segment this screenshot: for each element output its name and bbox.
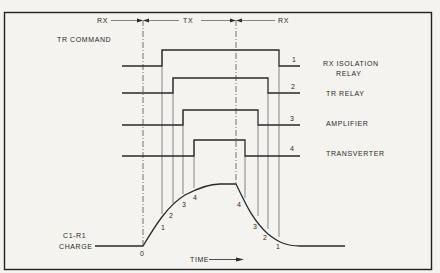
arrow-right-icon [236, 258, 244, 262]
fall-mark-4: 4 [237, 201, 242, 208]
channel-rx-isolation-relay: 1 RX ISOLATION RELAY [122, 50, 379, 77]
channel-label: TRANSVERTER [326, 150, 385, 157]
phase-label-rx-end: RX [278, 17, 289, 24]
time-label: TIME [190, 256, 209, 263]
rise-guides [162, 50, 194, 214]
channel-label: AMPLIFIER [326, 120, 368, 127]
phase-header: RX TX RX [97, 17, 289, 24]
phase-label-tx: TX [183, 17, 193, 24]
channel-number: 2 [291, 83, 296, 90]
channel-number: 4 [290, 145, 295, 152]
diagram-border [5, 13, 432, 270]
tr-command-label: TR COMMAND [57, 36, 111, 43]
charge-curve: C1-R1 CHARGE 0 1 2 3 4 4 3 2 1 [59, 184, 345, 257]
channel-amplifier: 3 AMPLIFIER [122, 110, 368, 127]
channel-tr-relay: 2 TR RELAY [122, 78, 365, 97]
fall-mark-1: 1 [276, 243, 281, 250]
charge-label-line2: CHARGE [59, 243, 93, 250]
time-axis: TIME [190, 256, 244, 263]
channel-transverter: 4 TRANSVERTER [122, 140, 385, 157]
rise-mark-1: 1 [161, 224, 166, 231]
charge-origin-label: 0 [140, 250, 145, 257]
channel-number: 3 [290, 115, 295, 122]
channel-label-line2: RELAY [336, 70, 361, 77]
charge-label: C1-R1 [63, 232, 86, 239]
channel-label: RX ISOLATION [323, 60, 379, 67]
fall-mark-2: 2 [263, 234, 268, 241]
timing-diagram: RX TX RX TR COMMAND 1 RX ISOLATION RELAY… [0, 0, 440, 273]
rise-mark-3: 3 [182, 201, 187, 208]
rise-mark-4: 4 [193, 194, 198, 201]
channel-label: TR RELAY [326, 90, 365, 97]
channel-number: 1 [292, 56, 297, 63]
phase-label-rx-start: RX [97, 17, 108, 24]
fall-mark-3: 3 [253, 223, 258, 230]
rise-mark-2: 2 [169, 212, 174, 219]
